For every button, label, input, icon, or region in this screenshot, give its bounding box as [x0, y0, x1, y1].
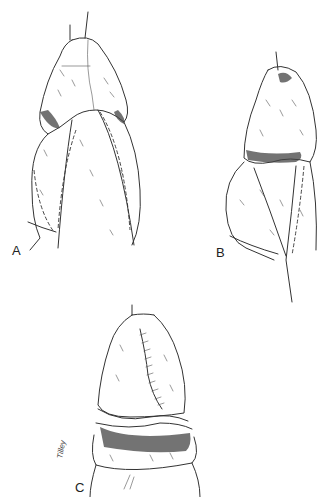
panel-a-drawing — [0, 0, 160, 260]
panel-c: C Tilley — [60, 305, 220, 497]
panel-a: A — [0, 0, 160, 260]
panel-b-drawing — [200, 40, 331, 280]
panel-c-drawing — [60, 305, 220, 497]
panel-label-c: C — [75, 481, 84, 494]
panel-b: B — [200, 40, 331, 280]
panel-label-b: B — [216, 246, 225, 259]
panel-label-a: A — [12, 244, 21, 257]
